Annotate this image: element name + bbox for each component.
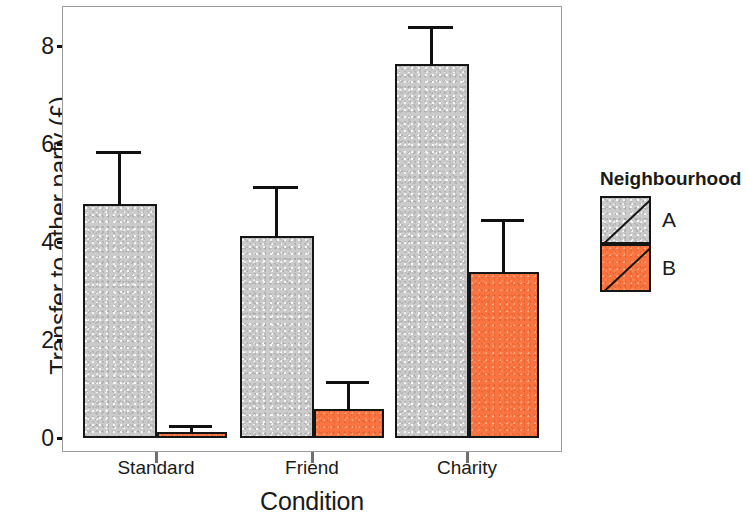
x-axis-title: Condition (62, 487, 562, 516)
bar-charity-b[interactable] (469, 272, 539, 438)
error-bar-charity-a-cap (408, 26, 453, 29)
y-tick-label-4: 4 (20, 231, 54, 254)
x-tick-label-standard: Standard (76, 457, 236, 479)
error-bar-charity-b-stem (502, 219, 505, 274)
error-bar-standard-a-cap (96, 151, 141, 154)
bar-friend-a[interactable] (240, 236, 314, 438)
legend-diagonal-line-icon (600, 244, 651, 292)
error-bar-friend-b-stem (347, 381, 350, 411)
y-tick-label-8: 8 (20, 35, 54, 58)
error-bar-standard-a-stem (118, 151, 121, 206)
bar-friend-b[interactable] (314, 409, 384, 438)
legend-title: Neighbourhood (600, 168, 747, 190)
y-tick-label-0: 0 (20, 427, 54, 450)
legend-swatch-b (600, 244, 651, 292)
legend-label-a: A (662, 209, 676, 230)
x-tick-label-charity: Charity (387, 457, 547, 479)
y-tick-label-2: 2 (20, 329, 54, 352)
legend-swatch-a (600, 196, 651, 244)
error-bar-standard-b-cap (169, 425, 212, 428)
bar-charity-a[interactable] (395, 64, 469, 438)
legend: Neighbourhood A B (600, 168, 747, 292)
error-bar-charity-b-cap (481, 219, 524, 222)
error-bar-charity-a-stem (430, 26, 433, 66)
x-tick-label-friend: Friend (232, 457, 392, 479)
legend-item-a[interactable]: A (600, 196, 747, 244)
bar-standard-a[interactable] (83, 204, 157, 438)
legend-label-b: B (662, 257, 676, 278)
error-bar-friend-a-stem (275, 186, 278, 238)
error-bar-friend-a-cap (253, 186, 298, 189)
y-tick-label-6: 6 (20, 133, 54, 156)
legend-item-b[interactable]: B (600, 244, 747, 292)
error-bar-friend-b-cap (326, 381, 369, 384)
bar-chart-figure: Transfer to other party (£) 8 6 4 2 0 St… (0, 0, 747, 526)
legend-diagonal-line-icon (600, 196, 651, 244)
